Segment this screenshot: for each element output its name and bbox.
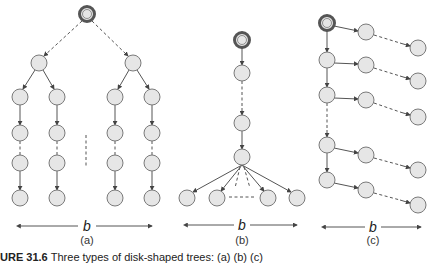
tree-node <box>12 190 28 206</box>
tree-node <box>107 190 123 206</box>
edge <box>137 70 149 89</box>
branch-edges <box>334 26 410 203</box>
tree-node <box>144 155 160 171</box>
tree-node <box>319 87 335 103</box>
tree-node <box>358 147 374 163</box>
tree-node <box>260 190 276 206</box>
panel-label: (b) <box>235 234 248 246</box>
width-label: b <box>369 219 377 235</box>
tree-node <box>49 190 65 206</box>
tree-node <box>410 162 426 178</box>
edge <box>44 21 82 56</box>
edge <box>43 70 54 89</box>
tree-node <box>12 89 28 105</box>
chain-edges <box>20 105 152 190</box>
tree-node <box>319 52 335 68</box>
tree-node <box>144 89 160 105</box>
panel-label: (c) <box>367 234 380 246</box>
root-node <box>320 16 335 31</box>
tree-node <box>234 149 250 165</box>
panel-b: b (b) <box>179 33 305 247</box>
tree-node <box>49 155 65 171</box>
edge <box>118 70 129 89</box>
tree-node <box>410 109 426 125</box>
tree-figure: b (a) b (b) <box>0 0 435 250</box>
tree-node <box>107 125 123 141</box>
panel-label: (a) <box>80 234 93 246</box>
tree-node <box>12 155 28 171</box>
tree-node <box>144 190 160 206</box>
tree-node <box>179 190 195 206</box>
caption-prefix: URE 31.6 <box>0 251 48 263</box>
tree-node <box>410 197 426 213</box>
tree-node <box>125 55 141 71</box>
root-node <box>80 7 95 22</box>
tree-node <box>358 92 374 108</box>
tree-node <box>358 182 374 198</box>
tree-node <box>107 155 123 171</box>
figure-caption: URE 31.6 Three types of disk-shaped tree… <box>0 251 263 263</box>
panel-c: b (c) <box>319 16 426 247</box>
tree-node <box>319 172 335 188</box>
tree-node <box>49 89 65 105</box>
tree-node <box>107 89 123 105</box>
tree-node <box>209 190 225 206</box>
width-label: b <box>238 217 246 233</box>
caption-text: Three types of disk-shaped trees: (a) (b… <box>51 251 263 263</box>
tree-node <box>234 65 250 81</box>
root-node <box>235 33 250 48</box>
edge <box>23 70 35 89</box>
tree-node <box>410 73 426 89</box>
tree-node <box>358 24 374 40</box>
tree-node <box>289 190 305 206</box>
tree-node <box>144 125 160 141</box>
tree-node <box>12 125 28 141</box>
tree-node <box>358 57 374 73</box>
tree-node <box>49 125 65 141</box>
tree-node <box>319 137 335 153</box>
tree-node <box>234 115 250 131</box>
tree-node <box>410 40 426 56</box>
edge <box>92 21 128 56</box>
panel-a: b (a) <box>12 7 160 247</box>
width-label: b <box>83 218 91 234</box>
tree-node <box>31 55 47 71</box>
